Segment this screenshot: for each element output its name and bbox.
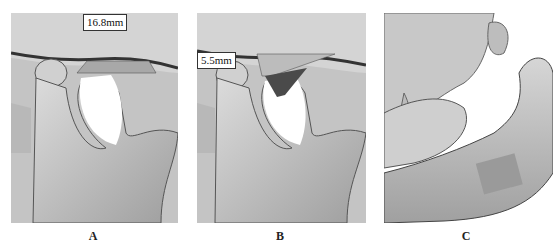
panel-label-c: C <box>456 229 476 244</box>
measurement-label-a: 16.8mm <box>83 14 127 31</box>
measurement-label-b: 5.5mm <box>197 52 236 69</box>
panel-label-a: A <box>83 229 103 244</box>
bone-render-b <box>197 13 366 223</box>
panel-a-image <box>11 13 178 223</box>
panel-b-image <box>197 13 366 223</box>
bone-render-a <box>11 13 178 223</box>
panel-c-image <box>384 13 553 223</box>
bone-render-c <box>384 13 553 223</box>
panel-label-b: B <box>270 229 290 244</box>
